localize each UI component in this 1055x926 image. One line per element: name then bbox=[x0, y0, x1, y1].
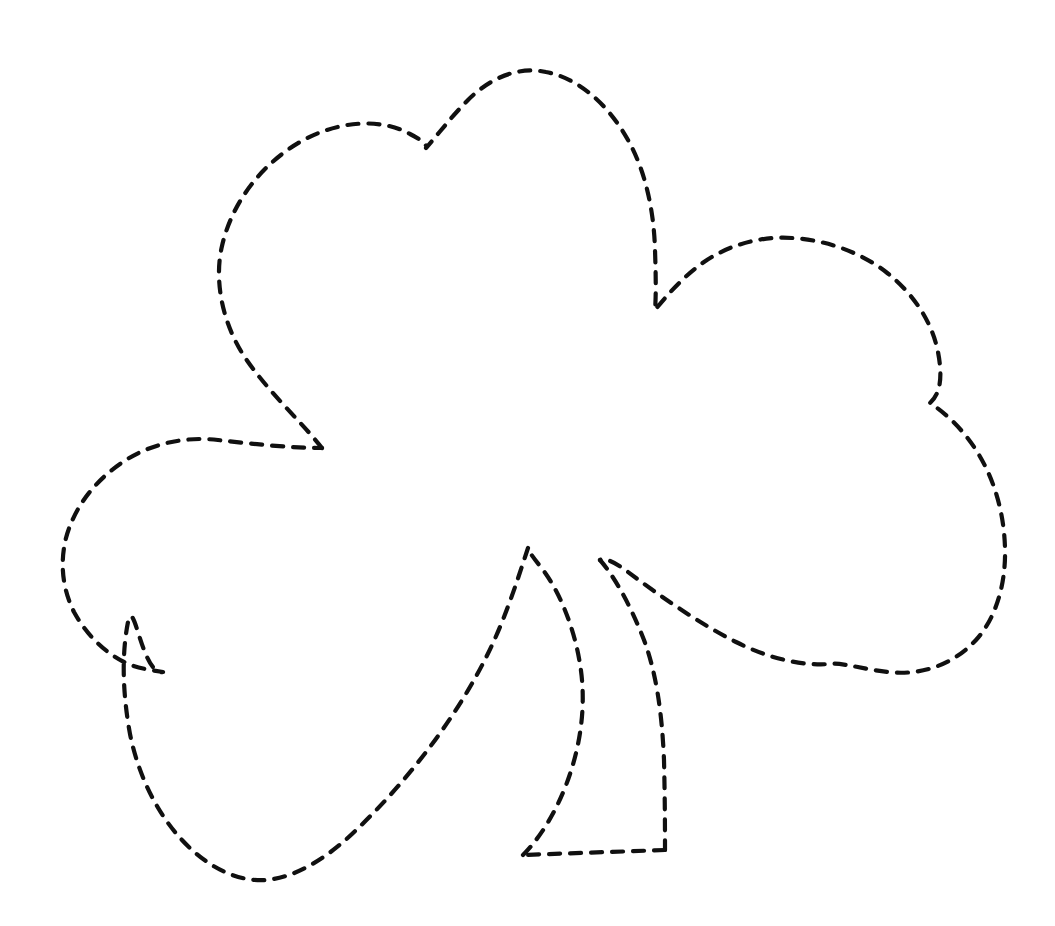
page-background bbox=[0, 0, 1055, 926]
worksheet-page: A large shamrock (three-leaf clover) out… bbox=[0, 0, 1055, 926]
shamrock-drawing bbox=[0, 0, 1055, 926]
